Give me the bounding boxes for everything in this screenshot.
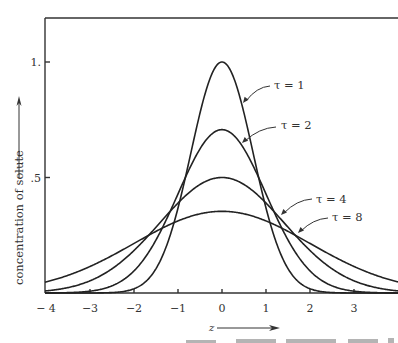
curves — [45, 62, 398, 293]
curve-label: τ = 2 — [281, 118, 312, 132]
y-ticks: .51. — [31, 56, 51, 185]
cut-off-caption — [186, 338, 394, 343]
arrowhead-icon — [242, 137, 248, 143]
x-tick-label: −2 — [126, 302, 142, 315]
x-tick-label: 3 — [351, 302, 358, 315]
x-tick-label: −3 — [82, 302, 98, 315]
leader-line — [301, 218, 328, 231]
curve-label: τ = 1 — [274, 78, 305, 92]
x-tick-label: 0 — [219, 302, 226, 315]
x-tick-label: −1 — [170, 302, 186, 315]
arrowhead-icon — [298, 227, 304, 233]
arrowhead-icon — [281, 209, 287, 215]
curve-label: τ = 4 — [316, 192, 347, 206]
x-tick-label: − 4 — [36, 302, 56, 315]
diffusion-chart: − 4−3−2−10123 .51. τ = 1τ = 2τ = 4τ = 8 … — [0, 0, 398, 343]
leader-line — [246, 86, 270, 101]
y-tick-label: 1. — [31, 56, 42, 69]
curve-label: τ = 8 — [332, 210, 363, 224]
y-tick-label: .5 — [31, 172, 42, 185]
x-tick-label: 2 — [307, 302, 314, 315]
x-tick-label: 1 — [263, 302, 270, 315]
arrowhead-icon — [243, 97, 249, 103]
plot-frame — [45, 18, 398, 293]
x-axis-label-group: z — [208, 322, 280, 333]
x-axis-label: z — [208, 322, 215, 333]
leader-line — [284, 199, 312, 213]
y-axis-label-group: concentration of solute — [12, 96, 26, 285]
curve-labels: τ = 1τ = 2τ = 4τ = 8 — [242, 78, 363, 233]
